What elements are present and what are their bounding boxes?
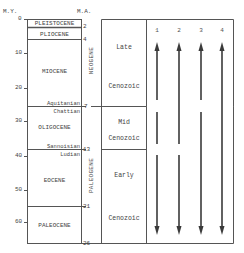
stage-ludian: Ludian: [28, 151, 80, 158]
era-late-line1: Late: [102, 44, 146, 51]
ma-26: 26: [83, 241, 90, 247]
era-late-line2: Cenozoic: [102, 83, 146, 90]
ma-4: 4: [83, 37, 87, 43]
era-mid-line1: Mid: [102, 119, 146, 126]
stage-miocene: MIOCENE: [28, 68, 81, 75]
arrow-label-2: 2: [174, 27, 184, 34]
range-arrows: [157, 49, 222, 230]
ma-2: 2: [83, 24, 87, 30]
arrow-label-1: 1: [152, 27, 162, 34]
period-neogene: NEOGENE: [88, 36, 95, 86]
arrow-label-4: 4: [217, 27, 227, 34]
era-early-line2: Cenozoic: [102, 215, 146, 222]
stage-eocene: EOCENE: [28, 177, 81, 184]
stage-pleistocene: PLEISTOCENE: [28, 20, 81, 27]
stage-pliocene: PLIOCENE: [28, 31, 81, 38]
arrow-label-3: 3: [196, 27, 206, 34]
era-mid-line2: Cenozoic: [102, 135, 146, 142]
stage-chattian: Chattian: [28, 108, 80, 115]
ma-7: 7: [84, 104, 88, 110]
era-early-line1: Early: [102, 172, 146, 179]
stage-oligocene: OLIGOCENE: [28, 124, 81, 131]
stage-aquitanian: Aquitanian: [28, 100, 80, 107]
stage-paleocene: PALEOCENE: [28, 222, 81, 229]
period-paleogene: PALEOGENE: [88, 146, 95, 206]
stage-sannoisian: Sannoisian: [28, 143, 80, 150]
